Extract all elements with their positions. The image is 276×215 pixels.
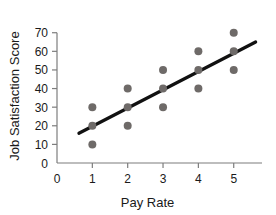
x-tick-label: 2 (124, 172, 131, 186)
scatter-chart: 010203040506070012345Pay RateJob Satisfa… (0, 0, 276, 215)
data-point (230, 47, 238, 55)
data-point (194, 85, 202, 93)
data-point (194, 47, 202, 55)
data-point (124, 103, 132, 111)
data-point (124, 85, 132, 93)
y-tick-label: 50 (35, 63, 49, 77)
x-tick-label: 1 (89, 172, 96, 186)
chart-canvas: 010203040506070012345Pay RateJob Satisfa… (0, 0, 276, 215)
y-tick-label: 60 (35, 45, 49, 59)
data-point (194, 66, 202, 74)
y-tick-label: 40 (35, 82, 49, 96)
trend-line (79, 42, 256, 133)
data-point (88, 103, 96, 111)
data-point (88, 140, 96, 148)
y-tick-label: 70 (35, 26, 49, 40)
data-point (159, 85, 167, 93)
data-point (230, 29, 238, 37)
y-axis-title: Job Satisfaction Score (7, 31, 22, 160)
data-point (159, 103, 167, 111)
y-tick-label: 0 (41, 157, 48, 171)
data-point (88, 122, 96, 130)
y-tick-label: 10 (35, 138, 49, 152)
y-tick-label: 30 (35, 101, 49, 115)
data-point (124, 122, 132, 130)
x-axis-title: Pay Rate (121, 195, 174, 210)
x-tick-label: 3 (160, 172, 167, 186)
x-tick-label: 4 (195, 172, 202, 186)
x-tick-label: 0 (54, 172, 61, 186)
data-point (230, 66, 238, 74)
x-tick-label: 5 (230, 172, 237, 186)
y-tick-label: 20 (35, 119, 49, 133)
data-point (159, 66, 167, 74)
